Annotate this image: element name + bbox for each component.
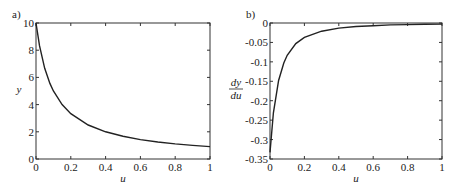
panel-b-xtick-label: 0 [267, 161, 273, 173]
panel-b-label: b) [246, 8, 256, 21]
panel-b-ytick-label: -0.2 [251, 95, 268, 107]
panel-a-xtick-label: 1 [207, 161, 213, 173]
panel-a-xtick-label: 0.6 [134, 161, 148, 173]
panel-b-ytick-label: -0.15 [245, 75, 268, 87]
panel-a-axes-frame [36, 23, 210, 159]
panel-b-ytick-label: -0.05 [245, 36, 268, 48]
panel-a-curve [36, 23, 210, 147]
panel-b-ytick-label: -0.25 [245, 114, 268, 126]
panel-b-ytick-label: -0.35 [245, 153, 268, 165]
panel-b-xtick-label: 1 [439, 161, 445, 173]
panel-b-xtick-label: 0.2 [298, 161, 312, 173]
panel-b-xtick-label: 0.8 [401, 161, 415, 173]
panel-b-ylabel-denominator: du [231, 89, 243, 101]
panel-a-xtick-label: 0.8 [168, 161, 182, 173]
panel-a-xtick-label: 0 [33, 161, 39, 173]
panel-a-xtick-label: 0.4 [99, 161, 113, 173]
panel-a-ytick-label: 4 [29, 99, 35, 111]
panel-a-ytick-label: 6 [29, 71, 35, 83]
panel-b-ylabel-numerator: dy [231, 76, 242, 88]
panel-b-ytick-label: 0 [263, 17, 269, 29]
panel-a-label: a) [12, 8, 21, 21]
panel-b-xtick-label: 0.4 [332, 161, 346, 173]
panel-a-ytick-label: 2 [29, 126, 35, 138]
panel-b-ytick-label: -0.3 [251, 134, 269, 146]
panel-a-ylabel: y [16, 83, 22, 95]
panel-a-ytick-label: 8 [29, 44, 35, 56]
panel-a-ytick-label: 10 [23, 17, 35, 29]
panel-b-xtick-label: 0.6 [366, 161, 380, 173]
panel-a-xlabel: u [120, 172, 126, 184]
panel-b-ytick-label: -0.1 [251, 56, 268, 68]
chart-canvas: 00.20.40.60.810246810ua)y00.20.40.60.810… [0, 0, 454, 185]
panel-a-ytick-label: 0 [29, 153, 35, 165]
panel-b-curve [270, 24, 442, 152]
panel-a-xtick-label: 0.2 [64, 161, 78, 173]
panel-b-xlabel: u [353, 172, 359, 184]
